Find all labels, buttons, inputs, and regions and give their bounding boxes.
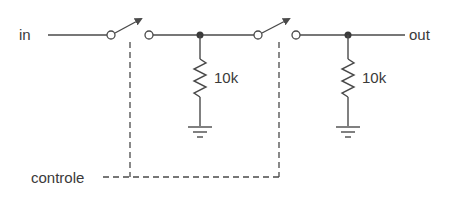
circuit-diagram: in 10k 10k ou <box>0 0 450 197</box>
resistor-1-zigzag <box>194 59 206 97</box>
resistor-2-value: 10k <box>362 69 387 86</box>
switch-1-right-terminal <box>145 31 153 39</box>
ground-icon <box>188 127 212 137</box>
resistor-2 <box>342 35 354 126</box>
switch-1-arm <box>115 19 141 33</box>
output-label: out <box>409 26 431 43</box>
control-linkage <box>103 42 279 177</box>
switch-1-left-terminal <box>107 31 115 39</box>
ground-icon <box>336 127 360 137</box>
switch-1 <box>107 19 153 39</box>
resistor-1 <box>194 35 206 126</box>
control-label: controle <box>31 169 84 186</box>
switch-2 <box>254 19 300 39</box>
switch-2-right-terminal <box>292 31 300 39</box>
switch-2-left-terminal <box>254 31 262 39</box>
resistor-2-zigzag <box>342 59 354 97</box>
switch-2-arm <box>262 19 289 33</box>
resistor-1-value: 10k <box>214 69 239 86</box>
input-label: in <box>19 26 31 43</box>
